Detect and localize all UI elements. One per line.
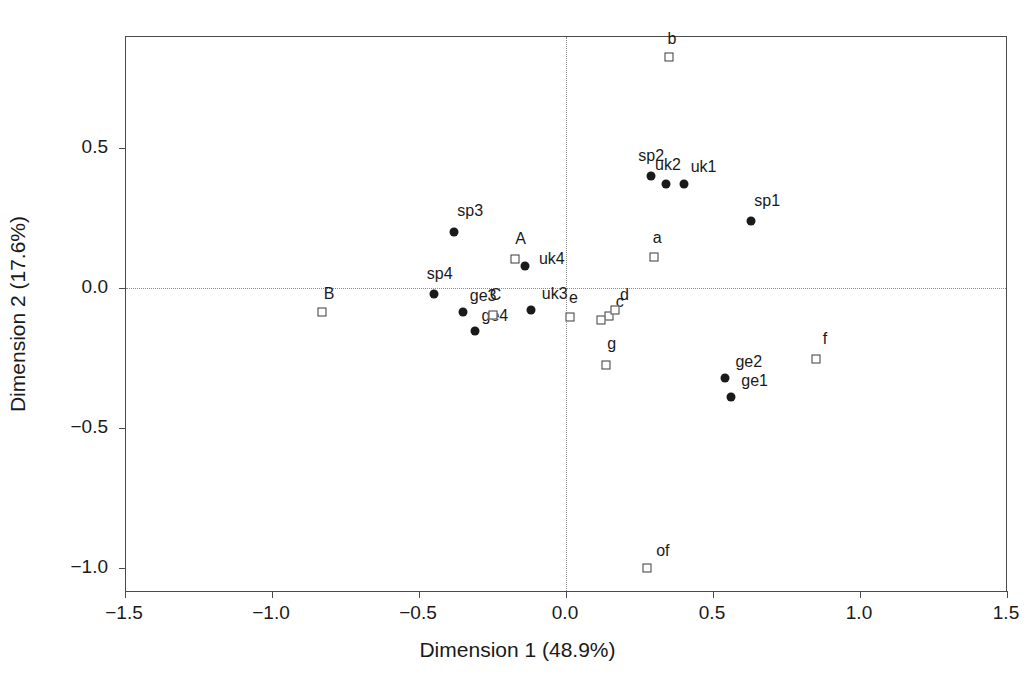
data-point-sp4 xyxy=(429,289,438,298)
point-label-A: A xyxy=(515,231,526,247)
data-point-d xyxy=(610,306,619,315)
y-axis-tick xyxy=(119,568,126,569)
data-point-A xyxy=(510,254,519,263)
data-point-C xyxy=(488,310,497,319)
y-axis-tick xyxy=(119,288,126,289)
point-label-B: B xyxy=(324,286,335,302)
y-axis-tick xyxy=(119,428,126,429)
data-point-uk2 xyxy=(661,180,670,189)
correspondence-analysis-figure: Dimension 2 (17.6%) Dimension 1 (48.9%) … xyxy=(0,0,1035,691)
x-axis-title: Dimension 1 (48.9%) xyxy=(0,638,1035,662)
point-label-ge2: ge2 xyxy=(735,354,762,370)
y-axis-tick-label: −1.0 xyxy=(70,556,108,578)
point-label-ge1: ge1 xyxy=(741,373,768,389)
point-label-sp1: sp1 xyxy=(754,193,780,209)
x-axis-tick-label: −1.5 xyxy=(105,602,143,624)
x-axis-tick-label: −1.0 xyxy=(252,602,290,624)
x-axis-tick xyxy=(713,591,714,598)
data-point-ge4 xyxy=(470,327,479,336)
point-label-of: of xyxy=(656,543,669,559)
data-point-of xyxy=(642,564,651,573)
x-axis-tick xyxy=(272,591,273,598)
point-label-f: f xyxy=(823,331,827,347)
x-axis-tick xyxy=(860,591,861,598)
x-axis-tick xyxy=(125,591,126,598)
point-label-a: a xyxy=(653,230,662,246)
point-label-sp3: sp3 xyxy=(457,203,483,219)
data-point-ge1 xyxy=(726,393,735,402)
data-point-f xyxy=(811,355,820,364)
data-point-B xyxy=(317,307,326,316)
point-label-sp4: sp4 xyxy=(427,266,453,282)
data-point-uk1 xyxy=(679,180,688,189)
data-point-b xyxy=(664,53,673,62)
x-axis-tick-label: −0.5 xyxy=(399,602,437,624)
data-point-sp3 xyxy=(450,228,459,237)
y-axis-tick-label: 0.0 xyxy=(82,276,108,298)
point-label-e: e xyxy=(569,290,578,306)
x-axis-tick-label: 0.0 xyxy=(552,602,578,624)
y-axis-tick xyxy=(119,148,126,149)
data-point-uk3 xyxy=(526,306,535,315)
y-axis-tick-label: 0.5 xyxy=(82,136,108,158)
x-axis-tick xyxy=(1007,591,1008,598)
cropped-caption-strip xyxy=(40,676,990,690)
x-axis-tick xyxy=(419,591,420,598)
data-point-ge3 xyxy=(459,307,468,316)
y-axis-tick-label: −0.5 xyxy=(70,416,108,438)
data-point-unlabeled xyxy=(597,316,606,325)
point-label-uk4: uk4 xyxy=(539,251,565,267)
point-label-uk3: uk3 xyxy=(542,286,568,302)
data-point-ge2 xyxy=(720,373,729,382)
x-axis-tick-label: 0.5 xyxy=(699,602,725,624)
data-point-g xyxy=(601,361,610,370)
x-axis-tick-label: 1.5 xyxy=(993,602,1019,624)
point-label-uk2: uk2 xyxy=(655,157,681,173)
point-label-d: d xyxy=(620,287,629,303)
y-axis-title: Dimension 2 (17.6%) xyxy=(6,216,30,412)
point-label-g: g xyxy=(607,336,616,352)
data-point-uk4 xyxy=(520,261,529,270)
x-axis-tick-label: 1.0 xyxy=(846,602,872,624)
plot-area: sp2uk2uk1sp1sp3uk4sp4ge3ge4uk3ge2ge1baAB… xyxy=(125,36,1007,592)
data-point-a xyxy=(650,253,659,262)
point-label-C: C xyxy=(490,287,502,303)
point-label-b: b xyxy=(667,31,676,47)
x-axis-tick xyxy=(566,591,567,598)
point-label-uk1: uk1 xyxy=(691,159,717,175)
data-point-e xyxy=(566,313,575,322)
data-point-sp1 xyxy=(747,216,756,225)
